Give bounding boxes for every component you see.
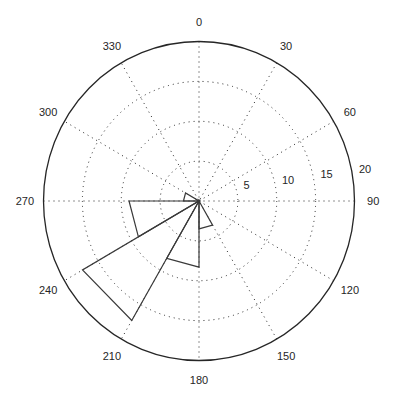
radial-tick-label: 15 — [320, 168, 332, 180]
rose-wedge — [183, 193, 199, 201]
angle-tick-label: 0 — [196, 16, 202, 28]
rose-wedge — [83, 201, 199, 320]
angle-tick-label: 270 — [16, 195, 34, 207]
angle-tick-label: 150 — [277, 350, 295, 362]
angle-tick-label: 60 — [344, 106, 356, 118]
angle-tick-label: 30 — [280, 40, 292, 52]
angle-tick-label: 120 — [341, 284, 359, 296]
rose-wedge — [199, 201, 213, 229]
angle-tick-label: 210 — [103, 350, 121, 362]
angle-tick-label: 300 — [39, 106, 57, 118]
angle-tick-label: 90 — [367, 195, 379, 207]
angle-tick-label: 240 — [39, 284, 57, 296]
radial-tick-label: 10 — [282, 174, 294, 186]
rose-wedges — [83, 193, 213, 320]
angle-tick-label: 330 — [103, 40, 121, 52]
polar-rose-chart: 0306090120150180210240270300330 5101520 — [0, 0, 393, 395]
radial-tick-labels: 5101520 — [243, 163, 371, 192]
angle-tick-label: 180 — [190, 374, 208, 386]
radial-tick-label: 20 — [359, 163, 371, 175]
radial-tick-label: 5 — [243, 179, 249, 191]
